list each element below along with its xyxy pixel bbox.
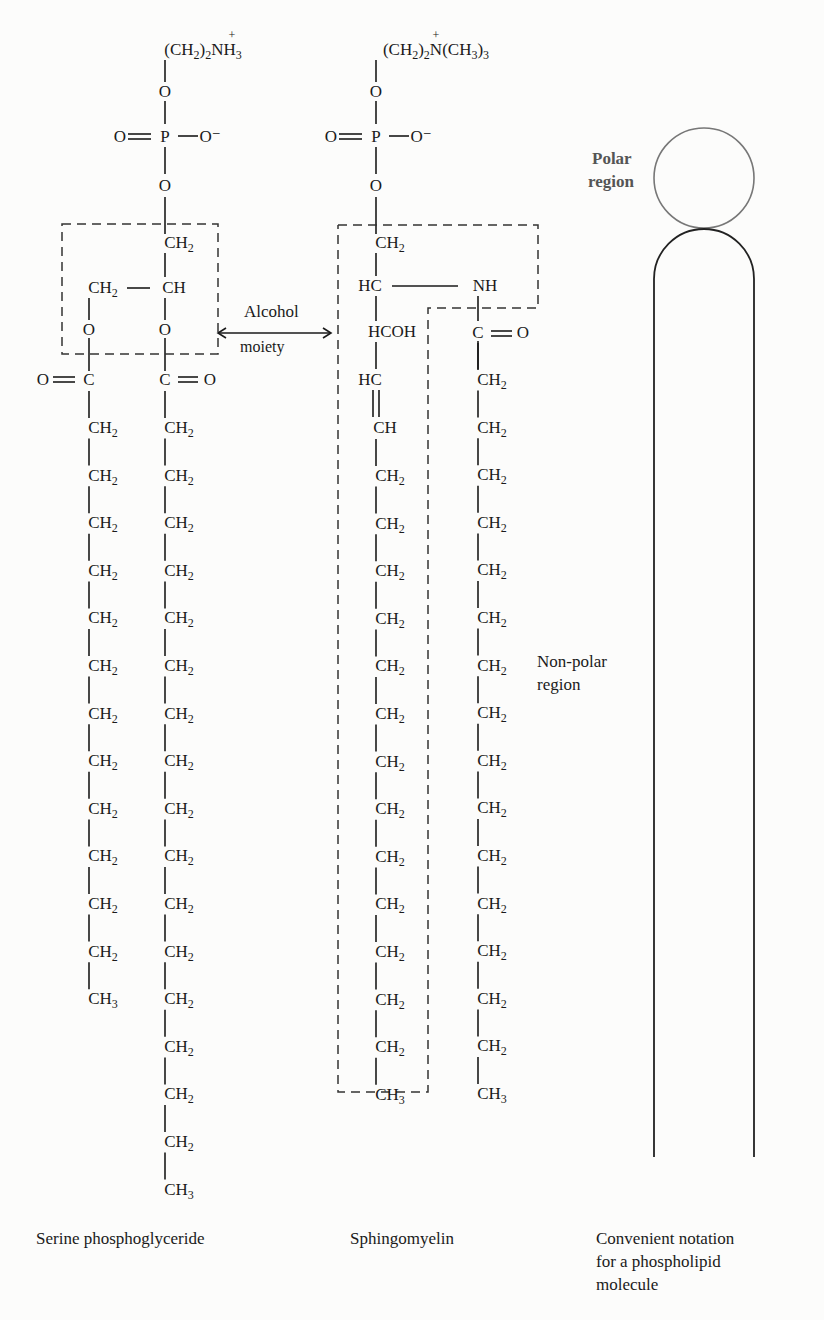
- ch2-group: CH2: [164, 513, 194, 533]
- phosphorus: P: [371, 127, 380, 147]
- ch2-group: CH2: [477, 465, 507, 485]
- phosphate-oxygen-minus: O⁻: [410, 127, 431, 147]
- amide-nh: NH: [473, 276, 498, 296]
- nonpolar-region-label-2: region: [537, 674, 580, 696]
- caption-line: for a phospholipid: [596, 1251, 721, 1273]
- ch2-group: CH2: [88, 561, 118, 581]
- serine-head-group: (CH2)2NH3: [164, 40, 242, 60]
- ch2-group: CH2: [477, 513, 507, 533]
- ch2-group: CH2: [375, 894, 405, 914]
- ch2-group: CH2: [375, 1037, 405, 1057]
- ch2-group: CH2: [164, 846, 194, 866]
- ch2-group: CH2: [164, 1037, 194, 1057]
- ch2-group: CH2: [88, 418, 118, 438]
- ch2-group: CH2: [164, 989, 194, 1009]
- sphingosine-hc: HC: [358, 276, 382, 296]
- ch2-group: CH2: [88, 704, 118, 724]
- ch2-group: CH2: [164, 418, 194, 438]
- ch2-group: CH2: [88, 894, 118, 914]
- glycerol-ch: CH: [162, 278, 186, 298]
- positive-charge: +: [229, 28, 236, 43]
- phosphate-oxygen-double: O: [325, 127, 337, 147]
- ch2-group: CH2: [375, 656, 405, 676]
- amide-oxygen: O: [517, 323, 529, 343]
- polar-region-label-1: Polar: [592, 148, 632, 170]
- ch2-group: CH2: [164, 561, 194, 581]
- amide-carbon: C: [472, 323, 483, 343]
- ester-oxygen: O: [159, 82, 171, 102]
- serine-caption: Serine phosphoglyceride: [36, 1228, 205, 1250]
- carbonyl-carbon-left: C: [83, 370, 94, 390]
- sphingosine-hc-double: HC: [358, 370, 382, 390]
- bond-lines: [0, 0, 824, 1320]
- ch2-group: CH2: [164, 704, 194, 724]
- ch2-group: CH2: [164, 466, 194, 486]
- ch2-group: CH2: [88, 799, 118, 819]
- choline-head-group: (CH2)2N(CH3)3: [383, 40, 489, 60]
- ch2-group: CH2: [88, 751, 118, 771]
- glycerol-ch2-top: CH2: [164, 233, 194, 253]
- ch2-group: CH2: [477, 751, 507, 771]
- phosphate-oxygen-double: O: [114, 127, 126, 147]
- ch2-group: CH2: [477, 846, 507, 866]
- ch2-group: CH2: [164, 894, 194, 914]
- ch2-group: CH2: [477, 1036, 507, 1056]
- ch2-group: CH2: [164, 751, 194, 771]
- ch2-group: CH2: [164, 942, 194, 962]
- polar-region-label-2: region: [588, 171, 634, 193]
- ch2-group: CH2: [88, 656, 118, 676]
- ch2-group: CH2: [88, 513, 118, 533]
- ch2-group: CH2: [164, 1132, 194, 1152]
- ch2-group: CH2: [477, 656, 507, 676]
- ch2-group: CH2: [477, 894, 507, 914]
- positive-charge: +: [433, 28, 440, 43]
- glycerol-o-right: O: [159, 320, 171, 340]
- glycerol-ch2-left: CH2: [88, 278, 118, 298]
- ch2-group: CH2: [375, 466, 405, 486]
- caption-line: Convenient notation: [596, 1228, 734, 1250]
- ch2-group: CH2: [164, 608, 194, 628]
- carbonyl-oxygen-left: O: [37, 370, 49, 390]
- ch2-group: CH2: [375, 561, 405, 581]
- ch2-group: CH2: [375, 514, 405, 534]
- ester-oxygen: O: [370, 82, 382, 102]
- caption-line: molecule: [596, 1274, 658, 1296]
- carbonyl-oxygen-right: O: [204, 370, 216, 390]
- ch2-group: CH2: [164, 799, 194, 819]
- ch2-group: CH2: [477, 941, 507, 961]
- ch2-group: CH2: [88, 466, 118, 486]
- ch2-group: CH2: [477, 560, 507, 580]
- ch2-group: CH2: [375, 799, 405, 819]
- ch2-group: CH2: [375, 990, 405, 1010]
- phosphate-oxygen-minus: O⁻: [199, 127, 220, 147]
- ch2-group: CH2: [375, 752, 405, 772]
- ch2-group: CH2: [477, 798, 507, 818]
- ester-oxygen: O: [159, 176, 171, 196]
- ch2-group: CH2: [88, 942, 118, 962]
- sphingosine-hcoh: HCOH: [368, 322, 416, 342]
- ch3-group: CH3: [477, 1084, 507, 1104]
- ch2-group: CH2: [88, 608, 118, 628]
- ch3-group: CH3: [375, 1085, 405, 1105]
- ch2-group: CH2: [375, 847, 405, 867]
- ch3-group: CH3: [164, 1180, 194, 1200]
- ch2-group: CH2: [88, 846, 118, 866]
- glycerol-o-left: O: [83, 320, 95, 340]
- ch2-group: CH2: [164, 656, 194, 676]
- alcohol-moiety-label-2: moiety: [240, 336, 284, 358]
- ch2-group: CH2: [477, 703, 507, 723]
- ester-oxygen: O: [370, 176, 382, 196]
- ch2-group: CH2: [375, 704, 405, 724]
- phosphorus: P: [160, 127, 169, 147]
- sphingosine-ch2: CH2: [375, 233, 405, 253]
- ch3-group: CH3: [88, 989, 118, 1009]
- ch2-group: CH2: [375, 609, 405, 629]
- ch2-group: CH2: [477, 370, 507, 390]
- carbonyl-carbon-right: C: [159, 370, 170, 390]
- ch2-group: CH2: [375, 942, 405, 962]
- sphingosine-ch-double: CH: [373, 418, 397, 438]
- sphingomyelin-caption: Sphingomyelin: [350, 1228, 454, 1250]
- ch2-group: CH2: [477, 418, 507, 438]
- ch2-group: CH2: [477, 608, 507, 628]
- ch2-group: CH2: [164, 1084, 194, 1104]
